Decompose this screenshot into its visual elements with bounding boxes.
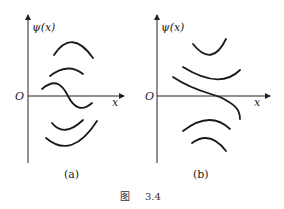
curve-b4 — [183, 120, 230, 131]
y-axis-label: ψ(x) — [32, 21, 55, 34]
panel-label-a: (a) — [64, 168, 79, 181]
panel-a: ψ(x) O x (a) — [15, 15, 124, 181]
panel-b: ψ(x) O x (b) — [145, 15, 270, 181]
origin-label: O — [145, 90, 154, 103]
curve-a1 — [54, 42, 93, 58]
y-axis-label: ψ(x) — [161, 21, 184, 34]
x-axis-label: x — [112, 96, 119, 109]
curve-a2 — [50, 68, 83, 76]
caption-number: 3.4 — [145, 191, 161, 202]
curve-a4 — [52, 120, 83, 130]
curve-b3 — [173, 77, 240, 119]
panel-label-b: (b) — [193, 168, 209, 181]
curve-b5 — [192, 138, 226, 151]
caption-prefix: 图 — [120, 191, 130, 202]
figure-caption: 图 3.4 — [120, 191, 161, 202]
curve-b1 — [193, 39, 226, 55]
figure-canvas: ψ(x) O x (a) ψ(x) O x (b) 图 3.4 — [0, 0, 284, 209]
curve-b2 — [183, 67, 240, 79]
x-axis-label: x — [254, 96, 261, 109]
origin-label: O — [15, 90, 24, 103]
